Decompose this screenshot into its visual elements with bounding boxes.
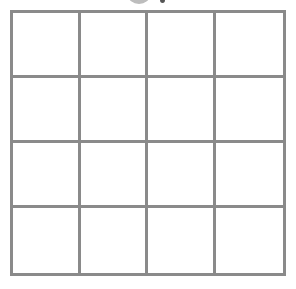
grid-cell-r3c1[interactable] xyxy=(13,143,81,208)
grid-cell-r3c3[interactable] xyxy=(148,143,216,208)
grid-board xyxy=(10,10,286,276)
grid-cell-r3c2[interactable] xyxy=(81,143,149,208)
grid-cell-r3c4[interactable] xyxy=(216,143,284,208)
grid-cell-r1c1[interactable] xyxy=(13,13,81,78)
grid-cell-r2c2[interactable] xyxy=(81,78,149,143)
grid-cell-r1c4[interactable] xyxy=(216,13,284,78)
grid-cell-r4c1[interactable] xyxy=(13,208,81,273)
clipped-circle-icon xyxy=(128,0,150,4)
small-dot-icon xyxy=(160,0,165,3)
grid-cell-r4c4[interactable] xyxy=(216,208,284,273)
grid-cell-r2c1[interactable] xyxy=(13,78,81,143)
grid-cell-r4c3[interactable] xyxy=(148,208,216,273)
grid-cell-r2c3[interactable] xyxy=(148,78,216,143)
grid-cell-r1c3[interactable] xyxy=(148,13,216,78)
grid-cell-r2c4[interactable] xyxy=(216,78,284,143)
grid-cell-r4c2[interactable] xyxy=(81,208,149,273)
grid-cell-r1c2[interactable] xyxy=(81,13,149,78)
